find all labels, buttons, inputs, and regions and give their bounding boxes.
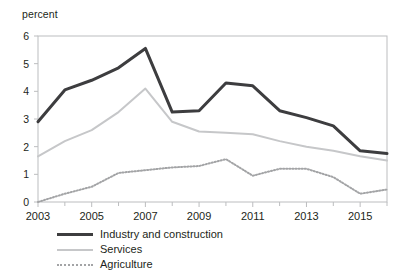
- legend-label-agriculture: Agriculture: [100, 258, 153, 271]
- plot-svg: 0123456 2003200520072009201120132015: [0, 0, 407, 226]
- y-axis-tick-label: 3: [23, 113, 29, 125]
- x-axis-tick-label: 2009: [187, 210, 211, 222]
- series-line-agriculture: [38, 159, 387, 202]
- legend-swatch-icon-services: [57, 244, 93, 256]
- x-axis-tick-group: 2003200520072009201120132015: [26, 202, 387, 222]
- chart-legend: Industry and construction Services Agric…: [57, 227, 387, 272]
- y-axis-tick-label: 1: [23, 168, 29, 180]
- x-axis-tick-label: 2013: [294, 210, 318, 222]
- y-axis-tick-label: 4: [23, 85, 29, 97]
- legend-item-services: Services: [57, 242, 387, 257]
- y-axis-tick-label: 6: [23, 30, 29, 42]
- x-axis-tick-label: 2003: [26, 210, 50, 222]
- x-axis-tick-label: 2007: [133, 210, 157, 222]
- legend-label-industry: Industry and construction: [100, 228, 223, 241]
- legend-swatch-icon-industry: [57, 229, 93, 241]
- legend-swatch-icon-agriculture: [57, 259, 93, 271]
- line-chart-figure: percent 0123456 200320052007200920112013…: [0, 0, 407, 280]
- y-axis-tick-group: 0123456: [23, 30, 38, 208]
- x-axis-tick-label: 2005: [79, 210, 103, 222]
- legend-item-industry-and-construction: Industry and construction: [57, 227, 387, 242]
- y-axis-tick-label: 0: [23, 196, 29, 208]
- series-group: [38, 48, 387, 202]
- plot-area: 0123456 2003200520072009201120132015: [0, 0, 407, 226]
- legend-label-services: Services: [100, 243, 142, 256]
- x-axis-tick-label: 2011: [241, 210, 265, 222]
- series-line-industry-and-construction: [38, 48, 387, 153]
- series-line-services: [38, 89, 387, 161]
- y-axis-tick-label: 2: [23, 141, 29, 153]
- y-axis-tick-label: 5: [23, 58, 29, 70]
- x-axis-tick-label: 2015: [348, 210, 372, 222]
- legend-item-agriculture: Agriculture: [57, 257, 387, 272]
